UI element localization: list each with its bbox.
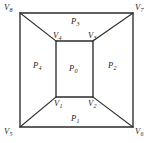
face-label-p2: P2 <box>108 61 116 70</box>
vertex-label-v8: V8 <box>4 3 12 12</box>
vertex-label-v4: V4 <box>53 31 61 40</box>
diagonal-v7-v3 <box>93 13 133 41</box>
face-label-p3: P3 <box>71 17 79 26</box>
vertex-label-v3: V3 <box>88 31 96 40</box>
vertex-label-v1: V1 <box>54 99 62 108</box>
vertex-label-v2: V2 <box>88 99 96 108</box>
face-label-p1: P1 <box>71 114 79 123</box>
diagonal-v6-v2 <box>93 97 133 127</box>
vertex-label-v7: V7 <box>135 3 143 12</box>
face-label-p4: P4 <box>33 61 41 70</box>
graph-figure: V1 V2 V3 V4 V5 V6 V7 V8 P0 P1 P2 P3 P4 <box>0 0 154 143</box>
vertex-label-v6: V6 <box>135 127 143 136</box>
vertex-label-v5: V5 <box>4 127 12 136</box>
diagonal-v8-v4 <box>20 13 56 41</box>
diagonal-v5-v1 <box>20 97 56 127</box>
face-label-p0: P0 <box>69 64 77 73</box>
